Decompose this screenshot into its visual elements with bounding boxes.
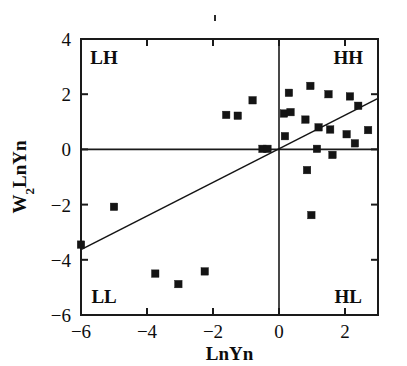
plot-frame — [81, 39, 378, 315]
data-point — [346, 93, 354, 101]
data-point — [287, 108, 295, 116]
data-point — [326, 126, 334, 134]
data-point — [201, 268, 209, 276]
data-point — [364, 126, 372, 134]
data-point — [77, 241, 85, 249]
data-point — [285, 89, 293, 97]
quadrant-label-ll: LL — [91, 286, 116, 307]
data-point — [249, 97, 257, 105]
x-tick-label-2: −2 — [203, 321, 223, 342]
y-tick-label-0: −6 — [51, 305, 71, 326]
moran-scatterplot-figure: −6−4−202−6−4−2024LHHHLLHLLnYnW2LnYn — [0, 0, 407, 366]
data-point — [280, 110, 288, 118]
regression-trendline — [81, 98, 378, 249]
y-axis-title-text: W2LnYn — [9, 140, 37, 213]
data-point — [264, 145, 272, 153]
data-point — [351, 140, 359, 148]
data-point — [313, 145, 321, 153]
data-point — [152, 270, 160, 278]
x-tick-label-0: −6 — [71, 321, 91, 342]
data-point — [354, 102, 362, 110]
data-point — [234, 112, 242, 120]
x-tick-label-3: 0 — [274, 321, 284, 342]
x-axis-title: LnYn — [206, 343, 254, 364]
scan-speck — [214, 15, 216, 21]
data-point — [307, 82, 315, 90]
data-point — [175, 280, 183, 288]
data-point — [315, 124, 323, 132]
y-axis-title: W2LnYn — [9, 140, 37, 213]
quadrant-label-hl: HL — [335, 286, 362, 307]
y-tick-label-4: 2 — [62, 84, 72, 105]
data-point — [222, 111, 230, 119]
scatter-plot-canvas: −6−4−202−6−4−2024LHHHLLHLLnYnW2LnYn — [0, 0, 407, 366]
x-tick-label-4: 2 — [340, 321, 350, 342]
quadrant-label-lh: LH — [90, 47, 118, 68]
data-point — [302, 116, 310, 124]
y-tick-label-1: −4 — [51, 250, 72, 271]
data-point — [343, 130, 351, 138]
data-point — [110, 203, 118, 211]
y-tick-label-3: 0 — [62, 139, 72, 160]
y-tick-label-5: 4 — [62, 29, 72, 50]
quadrant-label-hh: HH — [334, 47, 364, 68]
data-point — [308, 211, 316, 219]
data-point — [281, 132, 289, 140]
y-tick-label-2: −2 — [51, 195, 71, 216]
x-tick-label-1: −4 — [137, 321, 158, 342]
data-point — [329, 151, 337, 159]
data-point — [303, 166, 311, 174]
data-point — [325, 90, 333, 98]
